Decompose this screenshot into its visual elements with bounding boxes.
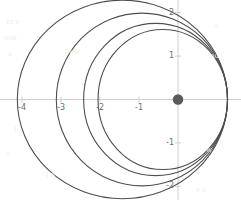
x-axis-tick-label: -1 (135, 104, 143, 112)
plot-canvas (0, 0, 241, 200)
y-axis-tick-label: 1 (169, 52, 174, 60)
focus-point-marker (173, 94, 183, 104)
y-axis-tick-label: -2 (166, 182, 174, 190)
x-axis-tick-label: -2 (96, 104, 104, 112)
kepler-orbit-plot: -4-3-2-121-1-2 nt eookaDowlci nonowv a (0, 0, 241, 200)
y-axis-tick-label: 2 (169, 9, 174, 17)
x-axis-tick-label: -3 (57, 104, 65, 112)
x-axis-tick-label: -4 (18, 104, 26, 112)
y-axis-tick-label: -1 (166, 139, 174, 147)
